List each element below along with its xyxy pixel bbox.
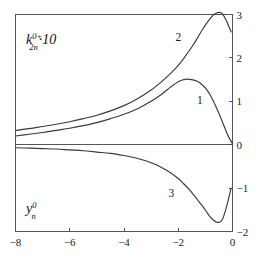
x-tick-label: 0 [230,236,236,248]
y-tick-label: 1 [237,95,243,107]
y-tick-label: 2 [237,52,243,64]
x-tick-label: −8 [10,236,22,248]
curve-label-2: 2 [175,31,181,43]
curve-label-3: 3 [169,187,175,199]
y-tick-label: 0 [237,139,243,151]
x-tick-label: −6 [64,236,76,248]
y-tick-label: −1 [237,182,249,194]
plot-figure: −8−6−4−20 −2−10123 123 k0+2n·10 y0n [0,0,263,263]
x-tick-label: −4 [118,236,130,248]
curve-label-1: 1 [197,94,203,106]
y-tick-label: −2 [237,226,249,238]
y-tick-label: 3 [237,9,243,21]
x-tick-label: −2 [172,236,184,248]
